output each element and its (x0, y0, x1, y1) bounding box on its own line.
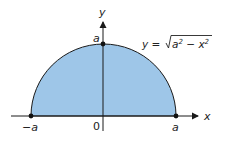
svg-text:y =: y = (141, 38, 160, 50)
y-axis-label: y (98, 6, 106, 19)
equation-lhs: y = (141, 38, 160, 50)
x-axis-label: x (203, 110, 211, 123)
equation-minus: − (183, 38, 198, 50)
top-a-label: a (93, 32, 100, 45)
right-endpoint-dot (174, 114, 179, 119)
radicand-x-exponent: 2 (205, 38, 210, 46)
svg-text:a2 − x2: a2 − x2 (172, 38, 210, 50)
semicircle-diagram: x y −a 0 a a y = a2 − x2 (0, 0, 226, 141)
top-point-dot (101, 42, 106, 47)
pos-a-label: a (172, 121, 179, 134)
neg-a-label: −a (22, 121, 38, 134)
left-endpoint-dot (29, 114, 34, 119)
equation-label: y = a2 − x2 (141, 36, 212, 51)
origin-label: 0 (93, 120, 100, 133)
